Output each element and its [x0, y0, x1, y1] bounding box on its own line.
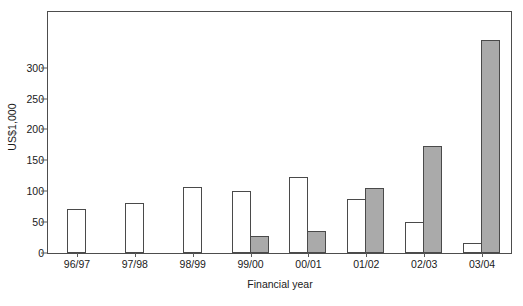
x-axis-tick-mark [482, 253, 483, 257]
y-axis-tick-label: 200 [26, 123, 44, 135]
y-axis-tick-label: 250 [26, 93, 44, 105]
x-axis-tick-label: 02/03 [411, 258, 437, 270]
y-axis-title-text: US$1,000 [6, 103, 18, 151]
x-axis-tick-mark [424, 253, 425, 257]
x-axis-tick-label: 98/99 [180, 258, 206, 270]
bar-03-04-white-series [463, 243, 482, 253]
x-axis-tick-labels: 96/9797/9898/9999/0000/0101/0202/0303/04 [48, 258, 512, 274]
x-axis-tick-label: 00/01 [295, 258, 321, 270]
x-axis-tick-label: 01/02 [353, 258, 379, 270]
bar-group [48, 12, 511, 253]
x-axis-tick-mark [135, 253, 136, 257]
x-axis-tick-label: 97/98 [122, 258, 148, 270]
x-axis-tick-mark [193, 253, 194, 257]
y-axis-tick-labels: 050100150200250300 [18, 0, 44, 306]
y-axis-tick-label: 150 [26, 154, 44, 166]
x-axis-tick-label: 99/00 [237, 258, 263, 270]
y-axis-tick-label: 300 [26, 62, 44, 74]
y-axis-tick-label: 50 [32, 216, 44, 228]
x-axis-tick-mark [366, 253, 367, 257]
bar-03-04-gray-series [481, 40, 500, 253]
x-axis-tick-mark [308, 253, 309, 257]
y-axis-tick-label: 0 [38, 247, 44, 259]
x-axis-tick-label: 96/97 [64, 258, 90, 270]
x-axis-title: Financial year [48, 278, 512, 290]
bar-chart: US$1,000 050100150200250300 96/9797/9898… [0, 0, 523, 306]
y-axis-tick-label: 100 [26, 185, 44, 197]
x-axis-tick-mark [77, 253, 78, 257]
bars-layer [48, 12, 511, 253]
x-axis-tick-label: 03/04 [469, 258, 495, 270]
x-axis-tick-mark [251, 253, 252, 257]
